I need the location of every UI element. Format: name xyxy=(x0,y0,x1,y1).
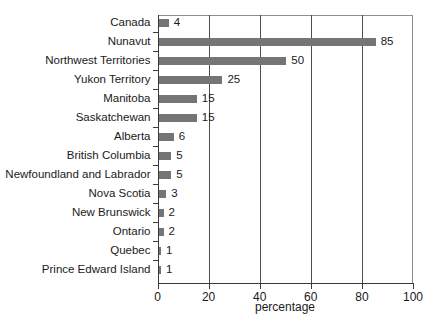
bar xyxy=(159,266,162,274)
y-axis-tick xyxy=(153,241,158,242)
y-axis-tick xyxy=(153,51,158,52)
category-label: Canada xyxy=(0,17,151,29)
gridline xyxy=(260,15,261,283)
x-axis-line xyxy=(158,283,415,284)
x-axis-tick xyxy=(209,284,210,289)
y-axis-tick xyxy=(153,146,158,147)
value-label: 15 xyxy=(202,112,215,124)
value-label: 85 xyxy=(381,36,394,48)
bar xyxy=(159,114,197,122)
horizontal-bar-chart: percentage Canada4Nunavut85Northwest Ter… xyxy=(0,0,441,325)
gridline xyxy=(362,15,363,283)
y-axis-tick xyxy=(153,165,158,166)
value-label: 3 xyxy=(171,188,177,200)
y-axis-line xyxy=(158,15,159,283)
category-label: Yukon Territory xyxy=(0,74,151,86)
x-axis-tick xyxy=(362,284,363,289)
value-label: 4 xyxy=(174,17,180,29)
category-label: Saskatchewan xyxy=(0,112,151,124)
bar xyxy=(159,19,169,27)
x-axis-tick xyxy=(311,284,312,289)
category-label: New Brunswick xyxy=(0,207,151,219)
bar xyxy=(159,95,197,103)
category-label: Nunavut xyxy=(0,36,151,48)
category-label: British Columbia xyxy=(0,150,151,162)
category-label: Alberta xyxy=(0,131,151,143)
value-label: 1 xyxy=(166,245,172,257)
x-axis-tick xyxy=(158,284,159,289)
category-label: Newfoundland and Labrador xyxy=(0,169,151,181)
x-tick-label: 60 xyxy=(304,291,317,303)
value-label: 25 xyxy=(227,74,240,86)
category-label: Ontario xyxy=(0,226,151,238)
plot-area xyxy=(158,15,414,283)
value-label: 5 xyxy=(176,169,182,181)
value-label: 1 xyxy=(166,264,172,276)
x-tick-label: 20 xyxy=(202,291,215,303)
bar xyxy=(159,209,164,217)
value-label: 2 xyxy=(169,207,175,219)
y-axis-tick xyxy=(153,260,158,261)
x-tick-label: 40 xyxy=(253,291,266,303)
bar xyxy=(159,228,164,236)
category-label: Prince Edward Island xyxy=(0,264,151,276)
value-label: 5 xyxy=(176,150,182,162)
x-axis-tick xyxy=(413,284,414,289)
x-tick-label: 0 xyxy=(154,291,161,303)
x-tick-label: 80 xyxy=(355,291,368,303)
gridline xyxy=(311,15,312,283)
bar xyxy=(159,152,172,160)
bar xyxy=(159,38,376,46)
category-label: Manitoba xyxy=(0,93,151,105)
bar xyxy=(159,247,162,255)
y-axis-tick xyxy=(153,108,158,109)
bar xyxy=(159,57,287,65)
value-label: 2 xyxy=(169,226,175,238)
y-axis-tick xyxy=(153,89,158,90)
category-label: Northwest Territories xyxy=(0,55,151,67)
bar xyxy=(159,171,172,179)
x-axis-tick xyxy=(260,284,261,289)
value-label: 6 xyxy=(179,131,185,143)
category-label: Nova Scotia xyxy=(0,188,151,200)
y-axis-tick xyxy=(153,127,158,128)
value-label: 50 xyxy=(291,55,304,67)
value-label: 15 xyxy=(202,93,215,105)
y-axis-tick xyxy=(153,70,158,71)
bar xyxy=(159,190,167,198)
gridline xyxy=(209,15,210,283)
y-axis-tick xyxy=(153,203,158,204)
y-axis-tick xyxy=(153,222,158,223)
y-axis-tick xyxy=(153,184,158,185)
category-label: Quebec xyxy=(0,245,151,257)
bar xyxy=(159,76,223,84)
bar xyxy=(159,133,174,141)
x-tick-label: 100 xyxy=(403,291,423,303)
y-axis-tick xyxy=(153,32,158,33)
